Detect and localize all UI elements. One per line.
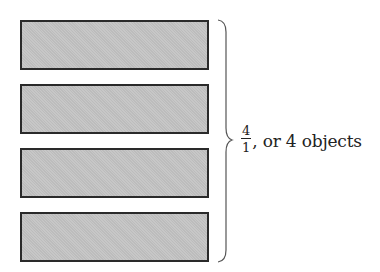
label-text: , or 4 objects <box>252 131 362 151</box>
fraction-label: 4 1 , or 4 objects <box>241 124 362 154</box>
fraction-denominator: 1 <box>242 139 250 154</box>
fraction: 4 1 <box>241 124 251 154</box>
fraction-numerator: 4 <box>241 124 251 139</box>
